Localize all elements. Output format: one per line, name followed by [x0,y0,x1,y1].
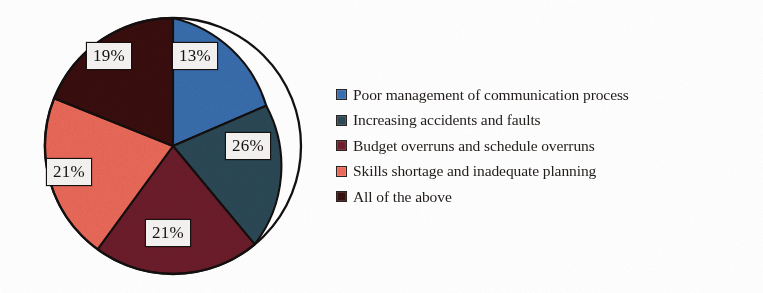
legend-label-skills-shortage: Skills shortage and inadequate planning [353,163,596,179]
pie-chart-plot-area: 13% 26% 21% 21% 19% [40,14,310,282]
legend-label-increasing-accidents: Increasing accidents and faults [353,112,541,128]
pie-label-26-percent: 26% [225,132,271,160]
legend-label-all-of-the-above: All of the above [353,189,452,205]
legend-item-skills-shortage[interactable]: Skills shortage and inadequate planning [336,159,756,185]
pie-label-21-percent-budget: 21% [145,219,191,247]
legend-label-poor-management: Poor management of communication process [353,87,629,103]
pie-label-21-percent-skills: 21% [46,158,92,186]
legend-swatch-icon-budget-overruns [336,140,347,151]
legend-swatch-icon-skills-shortage [336,166,347,177]
legend-item-increasing-accidents[interactable]: Increasing accidents and faults [336,108,756,134]
legend-item-all-of-the-above[interactable]: All of the above [336,184,756,210]
legend-swatch-icon-increasing-accidents [336,115,347,126]
legend-label-budget-overruns: Budget overruns and schedule overruns [353,138,595,154]
legend-item-budget-overruns[interactable]: Budget overruns and schedule overruns [336,133,756,159]
pie-label-19-percent: 19% [86,42,132,70]
pie-label-13-percent: 13% [172,42,218,70]
chart-legend: Poor management of communication process… [336,82,756,210]
legend-swatch-icon-poor-management [336,89,347,100]
legend-item-poor-management[interactable]: Poor management of communication process [336,82,756,108]
pie-chart-figure: 13% 26% 21% 21% 19% Poor management of c… [0,0,763,293]
legend-swatch-icon-all-of-the-above [336,191,347,202]
